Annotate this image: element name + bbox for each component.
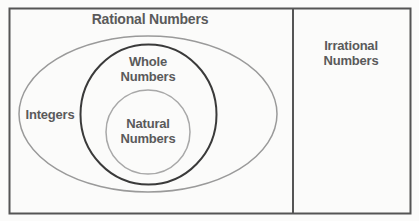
irrational-numbers-label: Irrational Numbers: [305, 38, 397, 68]
whole-numbers-label-line2: Numbers: [110, 69, 186, 84]
natural-numbers-label-line2: Numbers: [110, 131, 186, 146]
integers-label: Integers: [21, 107, 79, 122]
irrational-numbers-label-line2: Numbers: [305, 53, 397, 68]
natural-numbers-label: Natural Numbers: [110, 116, 186, 146]
whole-numbers-label-line1: Whole: [110, 54, 186, 69]
whole-numbers-label: Whole Numbers: [110, 54, 186, 84]
natural-numbers-label-line1: Natural: [110, 116, 186, 131]
irrational-numbers-label-line1: Irrational: [305, 38, 397, 53]
rational-numbers-label: Rational Numbers: [60, 12, 240, 27]
